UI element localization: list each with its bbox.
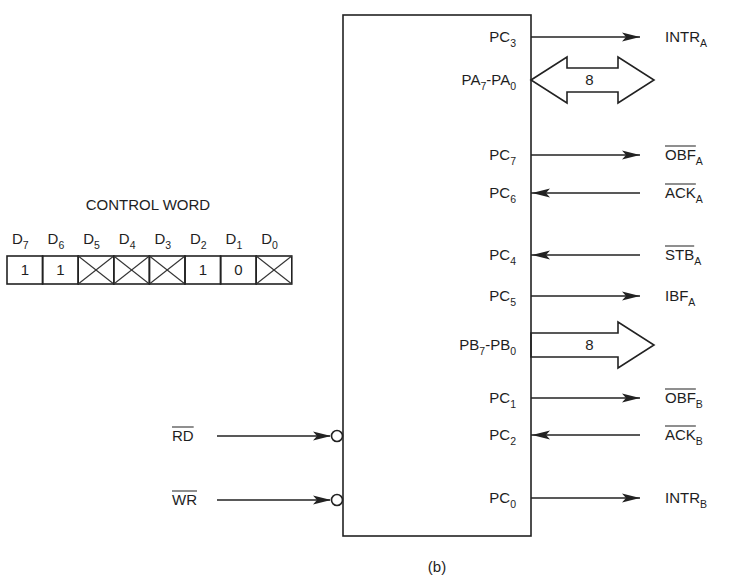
bit-header-label: D6: [48, 230, 65, 251]
bit-header-label: D4: [119, 230, 136, 251]
dont-care-x-icon: [78, 256, 114, 284]
pin-label: PC7: [489, 146, 516, 167]
dont-care-x-icon: [256, 256, 292, 284]
input-rd: RD: [172, 427, 343, 444]
input-label: RD: [172, 427, 194, 444]
pin-label: PC5: [489, 287, 516, 308]
port-row-pc0: PC0INTRB: [489, 489, 707, 510]
bit-header-label: D7: [12, 230, 29, 251]
bit-header-label: D5: [83, 230, 100, 251]
inversion-bubble-icon: [332, 431, 343, 442]
signal-label: OBFB: [665, 389, 703, 410]
dont-care-x-icon: [149, 256, 185, 284]
pin-label: PC3: [489, 28, 516, 49]
port-signals: PC3INTRAPA7-PA08PC7OBFAPC6ACKAPC4STBAPC5…: [459, 28, 707, 510]
bus-width-label: 8: [585, 336, 593, 353]
pin-label: PC2: [489, 426, 516, 447]
dont-care-x-icon: [114, 256, 150, 284]
port-row-pc2: PC2ACKB: [489, 426, 703, 447]
port-row-pc5: PC5IBFA: [489, 287, 695, 308]
diagram-canvas: PC3INTRAPA7-PA08PC7OBFAPC6ACKAPC4STBAPC5…: [0, 0, 732, 580]
port-row-pc1: PC1OBFB: [489, 389, 703, 410]
bus-pin-label: PA7-PA0: [462, 71, 517, 92]
signal-label: ACKB: [665, 426, 703, 447]
control-word: CONTROL WORDD71D61D5D4D3D21D10D0: [7, 196, 292, 284]
bus-pin-label: PB7-PB0: [459, 336, 516, 357]
bit-header-label: D1: [226, 230, 243, 251]
port-row-pc3: PC3INTRA: [489, 28, 707, 49]
signal-label: IBFA: [665, 287, 695, 308]
pin-label: PC1: [489, 389, 516, 410]
figure-caption: (b): [428, 558, 446, 575]
bit-value: 0: [234, 261, 242, 278]
bit-header-label: D3: [154, 230, 171, 251]
input-label: WR: [172, 491, 197, 508]
port-row-pc6: PC6ACKA: [489, 184, 703, 205]
bus-width-label: 8: [585, 71, 593, 88]
control-word-title: CONTROL WORD: [86, 196, 211, 213]
chip-body-box: [343, 15, 531, 536]
signal-label: STBA: [665, 246, 701, 267]
control-inputs: RDWR: [172, 427, 343, 508]
bit-value: 1: [56, 261, 64, 278]
inversion-bubble-icon: [332, 495, 343, 506]
mode-2-8255-diagram: PC3INTRAPA7-PA08PC7OBFAPC6ACKAPC4STBAPC5…: [0, 0, 732, 580]
pin-label: PC6: [489, 184, 516, 205]
pin-label: PC4: [489, 246, 516, 267]
signal-label: ACKA: [665, 184, 703, 205]
bit-value: 1: [21, 261, 29, 278]
signal-label: INTRA: [665, 28, 707, 49]
pin-label: PC0: [489, 489, 516, 510]
bit-header-label: D2: [190, 230, 207, 251]
signal-label: INTRB: [665, 489, 707, 510]
port-row-pc7: PC7OBFA: [489, 146, 703, 167]
signal-label: OBFA: [665, 146, 703, 167]
input-wr: WR: [172, 491, 343, 508]
bit-value: 1: [199, 261, 207, 278]
bit-header-label: D0: [261, 230, 278, 251]
port-row-pc4: PC4STBA: [489, 246, 701, 267]
port-row-pb7: PB7-PB08: [459, 322, 654, 368]
port-row-pa7: PA7-PA08: [462, 57, 655, 103]
